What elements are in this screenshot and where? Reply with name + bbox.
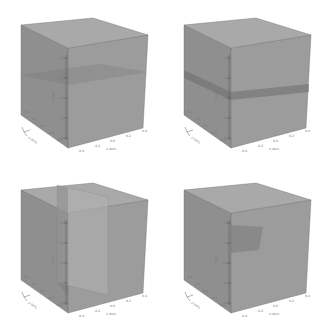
z-tick-label: 0.2 (60, 241, 65, 245)
y-tick-label: -0.2 (211, 296, 217, 300)
y-tick-label: 0.4 (24, 275, 29, 279)
cube-plot: 0.40.20.0-0.2-0.4z-axis-0.4-0.20.00.20.4… (0, 165, 163, 330)
x-tick-label: 0.2 (126, 299, 131, 303)
z-tick-label: 0.4 (60, 56, 65, 60)
z-tick-label: -0.2 (60, 281, 66, 285)
cube-right-face (231, 200, 311, 313)
y-tick-label: 0.0 (40, 289, 45, 293)
y-tick-label: -0.2 (211, 131, 217, 135)
z-axis-label: z-axis (51, 90, 55, 100)
y-tick-label: 0.0 (203, 124, 208, 128)
z-tick-label: 0.2 (60, 76, 65, 80)
cube-plot: 0.40.20.0-0.2-0.4z-axis-0.4-0.20.00.20.4… (0, 0, 163, 165)
y-tick-label: -0.2 (48, 296, 54, 300)
x-tick-label: 0.4 (305, 294, 310, 298)
z-tick-label: 0.4 (223, 221, 228, 225)
orientation-triad-icon (22, 127, 30, 136)
x-tick-label: 0.4 (142, 129, 147, 133)
y-tick-label: 0.4 (24, 110, 29, 114)
x-axis-label: x-axis (269, 147, 279, 151)
x-tick-label: -0.4 (78, 149, 84, 153)
z-tick-label: 0.0 (60, 261, 65, 265)
y-tick-label: 0.4 (187, 110, 192, 114)
y-tick-label: -0.4 (56, 303, 62, 307)
x-tick-label: 0.0 (110, 139, 115, 143)
x-tick-label: -0.4 (241, 314, 247, 318)
x-tick-label: -0.2 (257, 309, 263, 313)
y-tick-label: 0.2 (32, 117, 37, 121)
x-tick-label: 0.2 (126, 134, 131, 138)
y-tick-label: 0.2 (195, 282, 200, 286)
z-tick-label: 0.4 (60, 221, 65, 225)
x-tick-label: -0.4 (241, 149, 247, 153)
z-axis-label: z-axis (51, 255, 55, 265)
x-tick-label: 0.0 (273, 304, 278, 308)
y-tick-label: 0.0 (40, 124, 45, 128)
y-axis-label: y-axis (190, 301, 201, 310)
cube-panel-top-right: 0.40.20.0-0.2-0.4z-axis-0.4-0.20.00.20.4… (163, 0, 326, 165)
x-tick-label: -0.4 (78, 314, 84, 318)
y-tick-label: 0.4 (187, 275, 192, 279)
cube-right-face (68, 35, 148, 148)
cube-panel-top-left: 0.40.20.0-0.2-0.4z-axis-0.4-0.20.00.20.4… (0, 0, 163, 165)
x-axis-label: x-axis (106, 312, 116, 316)
slab-edge (57, 185, 68, 295)
z-tick-label: 0.2 (223, 76, 228, 80)
cube-panel-bottom-left: 0.40.20.0-0.2-0.4z-axis-0.4-0.20.00.20.4… (0, 165, 163, 330)
z-tick-label: -0.2 (223, 281, 229, 285)
y-tick-label: 0.2 (195, 117, 200, 121)
z-tick-label: 0.4 (223, 56, 228, 60)
y-tick-label: -0.4 (56, 138, 62, 142)
y-tick-label: 0.0 (203, 289, 208, 293)
y-tick-label: -0.4 (219, 303, 225, 307)
x-tick-label: 0.2 (289, 134, 294, 138)
z-tick-label: -0.2 (223, 116, 229, 120)
z-tick-label: 0.0 (223, 261, 228, 265)
z-tick-label: -0.2 (60, 116, 66, 120)
orientation-triad-icon (185, 292, 193, 301)
dark-region (231, 225, 263, 253)
x-tick-label: -0.2 (94, 144, 100, 148)
x-tick-label: 0.0 (273, 139, 278, 143)
x-tick-label: 0.0 (110, 304, 115, 308)
z-tick-label: 0.2 (223, 241, 228, 245)
orientation-triad-icon (22, 292, 30, 301)
x-tick-label: 0.4 (142, 294, 147, 298)
x-axis-label: x-axis (106, 147, 116, 151)
y-axis-label: y-axis (27, 301, 38, 310)
y-tick-label: -0.4 (219, 138, 225, 142)
cube-plot: 0.40.20.0-0.2-0.4z-axis-0.4-0.20.00.20.4… (163, 165, 326, 330)
cube-panel-bottom-right: 0.40.20.0-0.2-0.4z-axis-0.4-0.20.00.20.4… (163, 165, 326, 330)
y-axis-label: y-axis (27, 136, 38, 145)
x-tick-label: 0.2 (289, 299, 294, 303)
y-tick-label: -0.2 (48, 131, 54, 135)
z-axis-label: z-axis (214, 255, 218, 265)
z-axis-label: z-axis (214, 90, 218, 100)
cube-plot: 0.40.20.0-0.2-0.4z-axis-0.4-0.20.00.20.4… (163, 0, 326, 165)
z-tick-label: 0.0 (60, 96, 65, 100)
x-tick-label: -0.2 (94, 309, 100, 313)
orientation-triad-icon (185, 127, 193, 136)
y-tick-label: 0.2 (32, 282, 37, 286)
x-axis-label: x-axis (269, 312, 279, 316)
x-tick-label: 0.4 (305, 129, 310, 133)
z-tick-label: 0.0 (223, 96, 228, 100)
y-axis-label: y-axis (190, 136, 201, 145)
x-tick-label: -0.2 (257, 144, 263, 148)
